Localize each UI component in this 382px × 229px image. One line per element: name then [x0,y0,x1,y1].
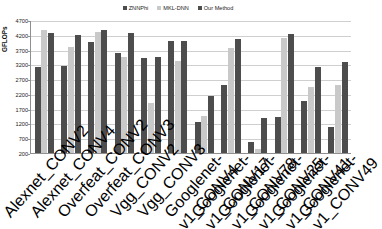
bar [41,30,47,153]
bar [208,96,214,153]
bar-group [31,21,58,153]
bar [335,85,341,153]
bar [281,38,287,153]
y-axis-tick-label: 1700 [1,107,28,113]
legend-entry-znnphi: ZNNPhi [123,5,149,11]
legend-entry-our-method: Our Method [198,5,234,11]
legend-swatch-icon-our-method [198,6,202,10]
bar [275,117,281,153]
bar [248,142,254,153]
y-axis-tick-label: 2200 [1,92,28,98]
x-axis-tick-labels: Alexnet_CONV2Alexnet_CONV4Overfeat_CONV2… [30,155,351,212]
y-axis-tick-label: 200 [1,151,28,157]
bar-group [298,21,325,153]
y-axis-tick-label: 4200 [1,33,28,39]
bar [288,34,294,153]
legend-label-znnphi: ZNNPhi [129,5,149,11]
legend-swatch-icon-znnphi [123,6,127,10]
bar-group [244,21,271,153]
bar-group [271,21,298,153]
y-axis-tick-label: 4700 [1,18,28,24]
legend-swatch-icon-mkl-dnn [157,6,161,10]
bar [301,101,307,153]
bar [48,33,54,153]
bar-group [324,21,351,153]
bar [308,87,314,153]
y-axis-tick-label: 700 [1,136,28,142]
bar [342,62,348,153]
bar [255,149,261,153]
y-axis-tick-label: 2700 [1,77,28,83]
bar [228,48,234,153]
bar [261,118,267,153]
bar [35,67,41,153]
bar-group [218,21,245,153]
bar [181,41,187,153]
bar [221,85,227,153]
y-axis-tick-label: 1200 [1,121,28,127]
y-axis-tick-label: 3700 [1,48,28,54]
legend-entry-mkl-dnn: MKL-DNN [157,5,188,11]
bar [328,127,334,153]
legend-label-our-method: Our Method [204,5,234,11]
bar [175,61,181,153]
bar [315,67,321,153]
bar-group [191,21,218,153]
bar [235,39,241,153]
chart-legend: ZNNPhi MKL-DNN Our Method [0,2,356,13]
legend-label-mkl-dnn: MKL-DNN [163,5,188,11]
y-axis-tick-label: 3200 [1,62,28,68]
